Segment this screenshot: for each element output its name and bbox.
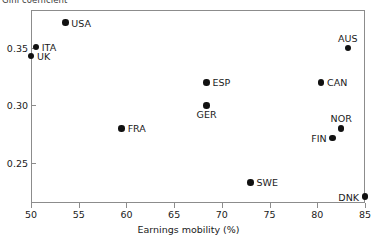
data-point-label: CAN bbox=[327, 77, 347, 88]
data-point-marker bbox=[318, 79, 325, 86]
data-point-label: FRA bbox=[128, 123, 146, 134]
data-point-label: SWE bbox=[256, 177, 277, 188]
data-point-label: NOR bbox=[331, 113, 352, 124]
data-point-marker bbox=[118, 125, 125, 132]
y-tick-mark bbox=[31, 163, 36, 164]
scatter-chart-figure: Gini coefficient 50556065707580850.350.3… bbox=[0, 0, 377, 242]
x-tick-label: 50 bbox=[25, 209, 37, 220]
data-point-label: USA bbox=[71, 17, 91, 28]
x-tick-mark bbox=[270, 203, 271, 208]
data-point-marker bbox=[247, 179, 254, 186]
x-tick-label: 60 bbox=[120, 209, 132, 220]
data-point-label: ESP bbox=[213, 77, 231, 88]
x-tick-mark bbox=[317, 203, 318, 208]
x-tick-mark bbox=[79, 203, 80, 208]
data-point-marker bbox=[203, 102, 210, 109]
x-tick-label: 85 bbox=[359, 209, 371, 220]
data-point-marker bbox=[338, 125, 345, 132]
data-point-marker bbox=[62, 19, 69, 26]
y-axis-title: Gini coefficient bbox=[2, 0, 67, 5]
data-point-label: AUS bbox=[338, 33, 357, 44]
x-tick-mark bbox=[126, 203, 127, 208]
x-tick-mark bbox=[31, 203, 32, 208]
x-tick-label: 75 bbox=[264, 209, 276, 220]
data-point-label: UK bbox=[37, 50, 50, 61]
y-tick-label: 0.30 bbox=[7, 100, 28, 111]
y-tick-mark bbox=[31, 105, 36, 106]
x-axis-title: Earnings mobility (%) bbox=[0, 224, 377, 235]
data-point-marker bbox=[362, 193, 369, 200]
x-tick-label: 70 bbox=[216, 209, 228, 220]
data-point-label: DNK bbox=[338, 191, 359, 202]
data-point-marker bbox=[329, 135, 336, 142]
data-point-label: GER bbox=[197, 109, 217, 120]
x-tick-label: 65 bbox=[168, 209, 180, 220]
x-tick-mark bbox=[174, 203, 175, 208]
plot-area bbox=[31, 10, 365, 203]
y-tick-label: 0.25 bbox=[7, 157, 28, 168]
x-tick-label: 80 bbox=[311, 209, 323, 220]
data-point-marker bbox=[203, 79, 210, 86]
x-tick-label: 55 bbox=[73, 209, 85, 220]
x-tick-mark bbox=[365, 203, 366, 208]
x-tick-mark bbox=[222, 203, 223, 208]
data-point-label: FIN bbox=[311, 133, 326, 144]
y-tick-label: 0.35 bbox=[7, 42, 28, 53]
data-point-marker bbox=[33, 44, 40, 51]
